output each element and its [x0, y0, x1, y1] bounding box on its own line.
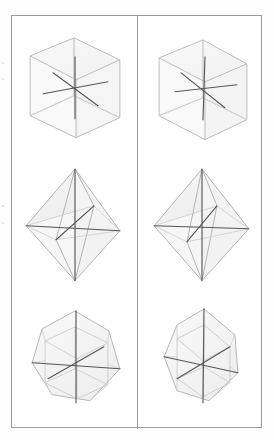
panel-cuboctahedron-left — [12, 291, 137, 429]
panel-cube-left — [12, 16, 137, 154]
scan-speck — [2, 78, 4, 80]
figure-root — [0, 0, 274, 440]
panel-grid — [12, 16, 261, 427]
panel-cuboctahedron-right — [137, 291, 262, 429]
scan-speck — [2, 222, 4, 224]
scan-speck — [2, 205, 4, 207]
panel-octahedron-right — [137, 154, 262, 292]
figure-frame — [11, 15, 262, 428]
panel-cube-right — [137, 16, 262, 154]
panel-octahedron-left — [12, 154, 137, 292]
scan-speck — [2, 62, 4, 64]
